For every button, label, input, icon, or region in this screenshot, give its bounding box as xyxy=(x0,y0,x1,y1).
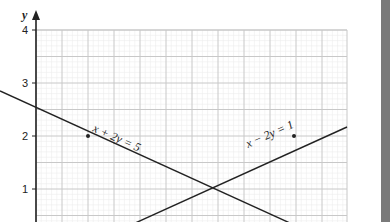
point-5-2 xyxy=(292,134,296,138)
tick-label-1: 1 xyxy=(22,183,28,195)
tick-label-2: 2 xyxy=(22,130,28,142)
y-axis-arrow-icon xyxy=(32,10,40,20)
line2-label: x − 2y = 1 xyxy=(243,117,296,151)
y-axis-label: y xyxy=(20,8,28,22)
point-1-2 xyxy=(86,134,90,138)
tick-label-4: 4 xyxy=(22,24,28,36)
page-edge-bar xyxy=(381,0,390,222)
line-x-plus-2y-equals-5 xyxy=(0,91,347,222)
tick-label-3: 3 xyxy=(22,77,28,89)
graph: y 4 3 2 1 x + 2y = 5 x − 2y = 1 xyxy=(0,0,390,222)
